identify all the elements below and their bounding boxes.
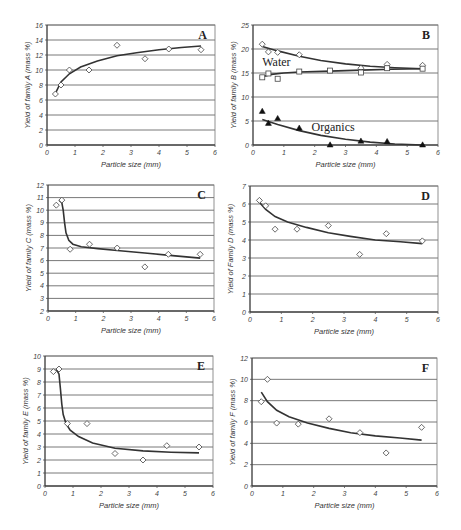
x-tick-label: 6 <box>435 490 439 497</box>
diamond-marker <box>165 251 171 257</box>
x-tick-label: 4 <box>155 490 159 497</box>
x-axis-label: Particle size (mm) <box>315 160 376 169</box>
y-tick-label: 8 <box>39 82 43 89</box>
x-tick-label: 6 <box>436 149 440 156</box>
diamond-marker <box>87 241 93 247</box>
panel-label: B <box>422 28 430 42</box>
diamond-marker <box>53 202 59 208</box>
panel-label: E <box>197 359 205 373</box>
y-axis-label: Yield of Family D (mass %) <box>226 203 235 294</box>
x-tick-label: 3 <box>129 149 133 156</box>
y-tick-label: 0 <box>37 483 41 490</box>
y-tick-label: 15 <box>241 70 249 77</box>
square-marker <box>297 69 302 74</box>
x-tick-label: 1 <box>281 490 285 497</box>
diamond-marker <box>59 197 65 203</box>
diamond-marker <box>52 91 58 97</box>
chart-panel-b: 05101520250123456Particle size (mm)Yield… <box>229 22 440 170</box>
x-tick-label: 3 <box>344 149 348 156</box>
y-tick-label: 5 <box>37 418 41 425</box>
series-family-c <box>53 197 203 270</box>
square-marker <box>260 75 265 80</box>
y-tick-label: 4 <box>37 431 41 438</box>
diamond-marker <box>383 450 389 456</box>
triangle-marker <box>275 115 281 120</box>
panel-label: A <box>198 28 207 42</box>
diamond-marker <box>112 451 118 457</box>
x-axis-label: Particle size (mm) <box>314 327 375 336</box>
y-tick-label: 3 <box>37 444 41 451</box>
y-tick-label: 6 <box>37 405 41 412</box>
diamond-marker <box>357 251 363 257</box>
y-tick-label: 7 <box>37 392 42 399</box>
y-tick-label: 3 <box>242 255 246 262</box>
y-tick-label: 3 <box>40 295 44 302</box>
triangle-marker <box>327 142 333 147</box>
y-axis-label: Yield of family B (mass %) <box>229 41 238 129</box>
chart-panel-c: 234567891011120123456Particle size (mm)Y… <box>24 182 216 336</box>
y-tick-label: 0 <box>244 483 248 490</box>
x-tick-label: 2 <box>311 490 316 497</box>
y-tick-label: 2 <box>39 308 44 315</box>
panel-label: F <box>422 361 429 375</box>
diamond-marker <box>325 223 331 229</box>
y-axis-label: Yield of family A (mass %) <box>23 41 32 128</box>
x-tick-label: 3 <box>129 315 133 322</box>
y-tick-label: 12 <box>36 182 44 189</box>
y-tick-label: 8 <box>40 232 44 239</box>
y-tick-label: 20 <box>240 46 249 53</box>
x-tick-label: 5 <box>183 490 187 497</box>
diamond-marker <box>164 443 170 449</box>
triangle-marker <box>296 125 302 130</box>
diamond-marker <box>326 416 332 422</box>
y-tick-label: 4 <box>242 237 246 244</box>
diamond-marker <box>258 399 264 405</box>
x-tick-label: 3 <box>127 490 131 497</box>
x-axis-label: Particle size (mm) <box>101 160 162 169</box>
y-axis-label: Yield of family E (mass %) <box>21 377 30 465</box>
y-tick-label: 4 <box>39 112 43 119</box>
square-marker <box>266 71 271 76</box>
y-tick-label: 4 <box>244 440 248 447</box>
y-tick-label: 12 <box>240 355 248 362</box>
x-tick-label: 5 <box>185 149 189 156</box>
y-tick-label: 4 <box>40 282 44 289</box>
y-axis-label: Yield of family F (mass %) <box>228 378 237 465</box>
y-tick-label: 5 <box>40 270 44 277</box>
x-tick-label: 5 <box>405 149 409 156</box>
y-tick-label: 8 <box>244 397 248 404</box>
diamond-marker <box>294 226 300 232</box>
y-tick-label: 2 <box>38 127 43 134</box>
y-tick-label: 6 <box>244 419 248 426</box>
y-tick-label: 7 <box>40 245 45 252</box>
x-tick-label: 1 <box>282 149 286 156</box>
y-tick-label: 11 <box>37 194 44 201</box>
x-tick-label: 6 <box>213 149 217 156</box>
diamond-marker <box>274 420 280 426</box>
x-tick-label: 2 <box>100 315 105 322</box>
triangle-marker <box>384 138 390 143</box>
diamond-marker <box>114 42 120 48</box>
diamond-marker <box>272 226 278 232</box>
diamond-marker <box>198 47 204 53</box>
square-marker <box>358 70 363 75</box>
x-tick-label: 0 <box>251 149 255 156</box>
chart-panel-a: 02468101214160123456Particle size (mm)Yi… <box>23 22 217 170</box>
y-tick-label: 9 <box>37 366 41 373</box>
diamond-marker <box>166 46 172 52</box>
diamond-marker <box>67 246 73 252</box>
diamond-marker <box>86 67 92 73</box>
x-tick-label: 1 <box>71 490 75 497</box>
x-tick-label: 4 <box>373 490 377 497</box>
y-tick-label: 16 <box>35 22 43 29</box>
y-tick-label: 1 <box>242 291 246 298</box>
x-tick-label: 4 <box>374 149 378 156</box>
y-tick-label: 25 <box>240 22 249 29</box>
series-family-e <box>50 366 202 463</box>
x-tick-label: 6 <box>212 315 216 322</box>
x-tick-label: 0 <box>46 315 50 322</box>
x-tick-label: 2 <box>100 149 105 156</box>
series-annotation: Water <box>262 55 290 69</box>
y-tick-label: 0 <box>245 142 249 149</box>
x-tick-label: 5 <box>405 316 409 323</box>
